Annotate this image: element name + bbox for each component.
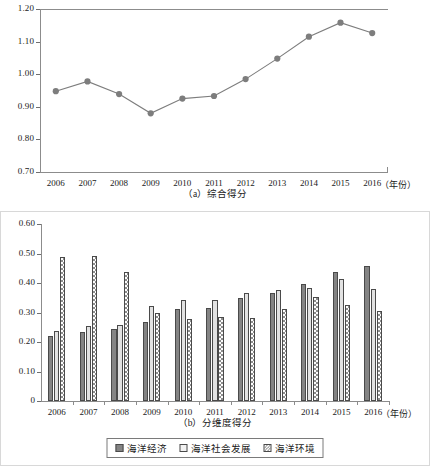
bar-2015-series0 bbox=[333, 272, 338, 401]
y-tick-a bbox=[36, 9, 40, 10]
y-axis-a bbox=[40, 9, 41, 172]
y-tick-b bbox=[37, 313, 41, 314]
y-tick-label-b: 0.30 bbox=[1, 307, 35, 317]
x-tick-b bbox=[231, 401, 232, 405]
bar-2006-series1 bbox=[54, 331, 59, 402]
bar-group-2009 bbox=[143, 224, 160, 401]
x-tick-label-a: 2010 bbox=[166, 178, 198, 188]
x-tick-label-b: 2011 bbox=[199, 407, 231, 417]
data-point-2010 bbox=[179, 96, 185, 102]
y-tick-b bbox=[37, 401, 41, 402]
bar-2006-series2 bbox=[60, 257, 65, 401]
x-tick-b bbox=[294, 401, 295, 405]
bar-2015-series1 bbox=[339, 279, 344, 401]
y-tick-label-b: 0 bbox=[1, 395, 35, 405]
x-axis-unit-a: （年份） bbox=[380, 178, 416, 191]
bar-2008-series2 bbox=[124, 272, 129, 402]
x-axis-a-endcap bbox=[387, 167, 388, 172]
legend-item-marine-environment: 海洋环境 bbox=[264, 441, 315, 455]
bar-2012-series0 bbox=[238, 298, 243, 401]
x-tick-label-b: 2006 bbox=[41, 407, 73, 417]
bar-2014-series2 bbox=[313, 297, 318, 401]
panel-a-line-chart: （a）综合得分 0.700.800.901.001.101.2020062007… bbox=[0, 0, 430, 205]
bar-group-2008 bbox=[111, 224, 128, 401]
panel-a-caption: （a）综合得分 bbox=[0, 186, 430, 200]
legend: 海洋经济 海洋社会发展 海洋环境 bbox=[107, 438, 324, 458]
y-tick-b bbox=[37, 254, 41, 255]
y-tick-label-a: 0.70 bbox=[0, 166, 34, 176]
bar-2016-series1 bbox=[371, 289, 376, 401]
y-tick-a bbox=[36, 107, 40, 108]
y-tick-label-b: 0.20 bbox=[1, 336, 35, 346]
x-tick-b bbox=[389, 401, 390, 405]
x-tick-label-b: 2007 bbox=[72, 407, 104, 417]
y-axis-b bbox=[41, 224, 42, 401]
x-tick-label-a: 2006 bbox=[40, 178, 72, 188]
bar-group-2012 bbox=[238, 224, 255, 401]
bar-2011-series0 bbox=[206, 308, 211, 402]
plot-area-a bbox=[40, 9, 388, 172]
x-tick-b bbox=[73, 401, 74, 405]
y-tick-a bbox=[36, 139, 40, 140]
plot-area-b bbox=[41, 224, 389, 401]
x-tick-label-b: 2012 bbox=[231, 407, 263, 417]
data-point-2009 bbox=[148, 110, 154, 116]
bar-2008-series1 bbox=[117, 325, 122, 401]
bar-2014-series0 bbox=[301, 284, 306, 401]
y-tick-b bbox=[37, 224, 41, 225]
x-tick-b bbox=[168, 401, 169, 405]
x-tick-label-a: 2009 bbox=[135, 178, 167, 188]
y-tick-label-a: 0.90 bbox=[0, 101, 34, 111]
y-tick-label-b: 0.60 bbox=[1, 218, 35, 228]
x-tick-label-a: 2012 bbox=[230, 178, 262, 188]
bar-2006-series0 bbox=[48, 336, 53, 401]
y-tick-label-b: 0.10 bbox=[1, 366, 35, 376]
legend-swatch-marine-environment-icon bbox=[264, 444, 272, 452]
bar-group-2011 bbox=[206, 224, 223, 401]
bar-2007-series1 bbox=[86, 326, 91, 401]
bar-group-2014 bbox=[301, 224, 318, 401]
x-tick-label-a: 2013 bbox=[261, 178, 293, 188]
y-tick-label-a: 0.80 bbox=[0, 133, 34, 143]
y-tick-label-a: 1.10 bbox=[0, 36, 34, 46]
bar-group-2013 bbox=[270, 224, 287, 401]
x-tick-label-b: 2013 bbox=[262, 407, 294, 417]
bar-2009-series1 bbox=[149, 306, 154, 401]
x-tick-b bbox=[136, 401, 137, 405]
x-axis-b bbox=[41, 401, 389, 402]
data-point-2015 bbox=[337, 20, 343, 26]
bar-2013-series1 bbox=[276, 290, 281, 402]
bar-group-2016 bbox=[364, 224, 381, 401]
x-tick-b bbox=[326, 401, 327, 405]
bar-2013-series2 bbox=[282, 309, 287, 401]
bar-2011-series2 bbox=[218, 317, 223, 401]
y-tick-label-b: 0.40 bbox=[1, 277, 35, 287]
legend-label-marine-social-development: 海洋社会发展 bbox=[191, 441, 251, 455]
line-path-composite-score bbox=[56, 23, 372, 114]
x-tick-label-a: 2007 bbox=[71, 178, 103, 188]
data-point-2013 bbox=[274, 56, 280, 62]
legend-swatch-marine-social-development-icon bbox=[180, 444, 188, 452]
x-axis-unit-b: （年份） bbox=[381, 407, 417, 420]
data-point-2011 bbox=[211, 93, 217, 99]
y-tick-a bbox=[36, 74, 40, 75]
x-tick-label-a: 2014 bbox=[293, 178, 325, 188]
x-tick-b bbox=[104, 401, 105, 405]
x-tick-b bbox=[357, 401, 358, 405]
data-point-2016 bbox=[369, 30, 375, 36]
bar-group-2010 bbox=[175, 224, 192, 401]
x-tick-label-a: 2015 bbox=[325, 178, 357, 188]
y-tick-b bbox=[37, 283, 41, 284]
bar-2008-series0 bbox=[111, 329, 116, 401]
bar-2015-series2 bbox=[345, 305, 350, 401]
legend-label-marine-environment: 海洋环境 bbox=[275, 441, 315, 455]
x-tick-label-b: 2008 bbox=[104, 407, 136, 417]
bar-2011-series1 bbox=[212, 300, 217, 401]
figure-container: （a）综合得分 0.700.800.901.001.101.2020062007… bbox=[0, 0, 430, 466]
x-tick-label-b: 2009 bbox=[136, 407, 168, 417]
bar-2013-series0 bbox=[270, 293, 275, 401]
data-point-2012 bbox=[243, 76, 249, 82]
bar-2012-series2 bbox=[250, 318, 255, 401]
y-tick-b bbox=[37, 342, 41, 343]
y-tick-a bbox=[36, 172, 40, 173]
